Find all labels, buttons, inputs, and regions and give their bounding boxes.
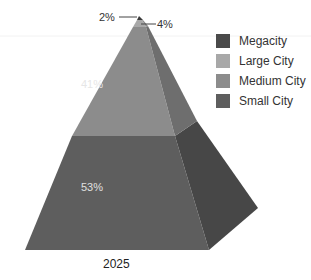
x-axis-category-label: 2025 (103, 257, 130, 271)
legend-item-small-city: Small City (216, 91, 306, 111)
data-label-medium-city: 41% (81, 78, 103, 90)
legend-swatch-large-city (216, 54, 230, 68)
megacity-tip (137, 16, 143, 20)
data-label-megacity: 2% (99, 11, 115, 23)
legend-swatch-megacity (216, 34, 230, 48)
legend-label: Megacity (239, 34, 287, 48)
legend-label: Large City (239, 54, 294, 68)
legend-item-megacity: Megacity (216, 31, 306, 51)
legend-item-large-city: Large City (216, 51, 306, 71)
legend-swatch-small-city (216, 94, 230, 108)
legend-item-medium-city: Medium City (216, 71, 306, 91)
legend: Megacity Large City Medium City Small Ci… (216, 31, 306, 111)
data-label-small-city: 53% (81, 181, 103, 193)
legend-label: Medium City (239, 74, 306, 88)
legend-swatch-medium-city (216, 74, 230, 88)
data-label-large-city: 4% (157, 18, 173, 30)
legend-label: Small City (239, 94, 293, 108)
